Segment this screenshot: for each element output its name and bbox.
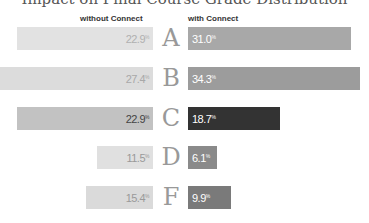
grade-label-f: F — [154, 186, 188, 209]
grade-label-c: C — [154, 107, 188, 130]
bar-with-connect-a: 31.0% — [188, 27, 351, 50]
value-label: 18.7 — [192, 113, 211, 125]
bar-with-connect-c: 18.7% — [188, 107, 280, 130]
value-label: 31.0 — [192, 33, 211, 45]
bar-without-connect-f: 15.4% — [86, 186, 153, 209]
value-label: 15.4 — [126, 192, 145, 204]
chart-title: Impact on Final Course Grade Distributio… — [0, 0, 369, 8]
bar-without-connect-a: 22.9% — [17, 27, 153, 50]
bar-with-connect-b: 34.3% — [188, 67, 360, 90]
grade-label-a: A — [154, 27, 188, 50]
value-label: 27.4 — [126, 73, 145, 85]
header-without-connect: without Connect — [80, 14, 143, 23]
value-label: 22.9 — [126, 113, 145, 125]
grade-label-b: B — [154, 67, 188, 90]
bar-without-connect-c: 22.9% — [17, 107, 153, 130]
bar-without-connect-b: 27.4% — [0, 67, 153, 90]
header-with-connect: with Connect — [188, 14, 238, 23]
grade-label-d: D — [154, 146, 188, 169]
bar-with-connect-f: 9.9% — [188, 186, 231, 209]
value-label: 34.3 — [192, 73, 211, 85]
value-label: 6.1 — [192, 152, 206, 164]
value-label: 11.5 — [126, 152, 145, 164]
bar-without-connect-d: 11.5% — [97, 146, 153, 169]
value-label: 22.9 — [126, 33, 145, 45]
value-label: 9.9 — [192, 192, 206, 204]
bar-with-connect-d: 6.1% — [188, 146, 217, 169]
